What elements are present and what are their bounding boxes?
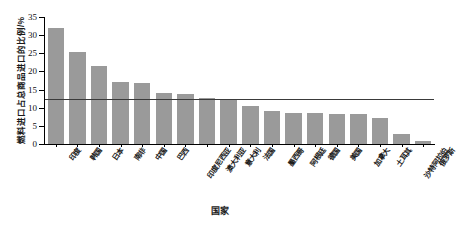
y-tick-mark	[39, 126, 44, 127]
y-tick-label: 0	[18, 140, 37, 148]
bar[interactable]	[91, 66, 107, 144]
bar[interactable]	[112, 82, 128, 144]
y-tick-label: 10	[18, 104, 37, 112]
reference-line	[45, 99, 434, 100]
y-tick-mark	[39, 144, 44, 145]
bar[interactable]	[134, 83, 150, 144]
bar[interactable]	[264, 111, 280, 144]
x-tick-label: 加拿大	[372, 146, 391, 168]
y-tick-label: 15	[18, 86, 37, 94]
bar[interactable]	[220, 99, 236, 144]
y-tick-mark	[39, 90, 44, 91]
x-axis-tick-labels: 印度韩国日本南非中国巴西印度尼西亚澳大利亚意大利法国墨西哥阿根廷德国美国加拿大土…	[45, 146, 434, 204]
bar[interactable]	[199, 98, 215, 144]
y-tick-label: 35	[18, 13, 37, 21]
y-tick-mark	[39, 35, 44, 36]
x-tick-label: 巴西	[175, 146, 190, 163]
bar[interactable]	[177, 94, 193, 144]
y-tick-mark	[39, 108, 44, 109]
bar[interactable]	[48, 28, 64, 144]
y-tick-label: 20	[18, 67, 37, 75]
x-tick-label: 美国	[348, 146, 363, 163]
x-tick-label: 阿根廷	[307, 146, 326, 168]
bar[interactable]	[372, 118, 388, 144]
bar[interactable]	[285, 113, 301, 144]
x-axis-title: 国家	[0, 204, 439, 217]
y-tick-label: 30	[18, 31, 37, 39]
y-axis-title: 燃料进口占总商品进口的比例/%	[14, 8, 28, 153]
bar[interactable]	[329, 114, 345, 144]
bar[interactable]	[156, 93, 172, 144]
x-tick-label: 印度	[67, 146, 82, 163]
bar[interactable]	[69, 52, 85, 144]
bar[interactable]	[350, 114, 366, 144]
x-tick-label: 法国	[261, 146, 276, 163]
x-tick-label: 中国	[153, 146, 168, 163]
x-tick-label: 墨西哥	[286, 146, 305, 168]
bar[interactable]	[393, 134, 409, 144]
y-tick-label: 25	[18, 49, 37, 57]
y-tick-mark	[39, 71, 44, 72]
bar[interactable]	[242, 106, 258, 144]
bars-group	[45, 17, 434, 144]
x-tick-label: 韩国	[88, 146, 103, 163]
x-tick-label: 日本	[110, 146, 125, 163]
x-tick-label: 南非	[132, 146, 147, 163]
y-tick-label: 5	[18, 122, 37, 130]
y-tick-mark	[39, 17, 44, 18]
y-tick-mark	[39, 53, 44, 54]
x-tick-label: 土耳其	[394, 146, 413, 168]
x-tick-label: 德国	[326, 146, 341, 163]
bar[interactable]	[307, 113, 323, 144]
